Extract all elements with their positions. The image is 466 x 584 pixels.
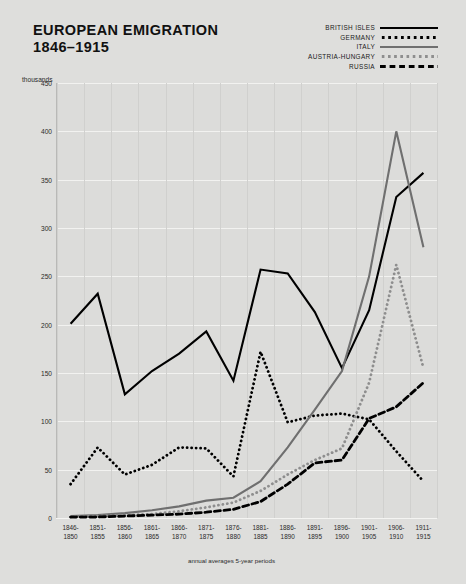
series-line-british-isles: [71, 173, 424, 394]
chart-page: EUROPEAN EMIGRATION 1846–1915 BRITISH IS…: [0, 0, 466, 584]
y-tick-400: 400: [8, 128, 52, 135]
page-title: EUROPEAN EMIGRATION: [33, 22, 218, 39]
legend-item-label: ITALY: [356, 43, 375, 50]
legend-swatch-dotted-icon: [380, 53, 438, 61]
legend-swatch-dashed-icon: [380, 62, 438, 70]
legend-item-label: BRITISH ISLES: [325, 24, 375, 31]
y-tick-0: 0: [8, 515, 52, 522]
plot-area: [57, 83, 437, 518]
legend-item-label: GERMANY: [340, 34, 375, 41]
x-axis-line: [56, 518, 437, 519]
legend-swatch-solid-icon: [380, 43, 438, 51]
legend-item-label: AUSTRIA-HUNGARY: [308, 53, 375, 60]
x-axis-tick-labels: 1846- 18501851- 18551856- 18601861- 1865…: [57, 524, 437, 554]
y-tick-100: 100: [8, 418, 52, 425]
page-subtitle: 1846–1915: [33, 39, 218, 56]
y-tick-450: 450: [8, 80, 52, 87]
series-lines: [57, 83, 437, 518]
legend-item-russia[interactable]: RUSSIA: [308, 61, 438, 71]
title-block: EUROPEAN EMIGRATION 1846–1915: [33, 22, 218, 56]
y-tick-50: 50: [8, 466, 52, 473]
legend-item-austria-hungary[interactable]: AUSTRIA-HUNGARY: [308, 52, 438, 62]
y-tick-150: 150: [8, 370, 52, 377]
y-tick-350: 350: [8, 176, 52, 183]
y-tick-250: 250: [8, 273, 52, 280]
y-tick-300: 300: [8, 225, 52, 232]
legend-item-british-isles[interactable]: BRITISH ISLES: [308, 23, 438, 33]
legend-item-label: RUSSIA: [349, 63, 375, 70]
gridline-x-14: [437, 83, 438, 518]
legend-swatch-dotted-icon: [380, 33, 438, 41]
x-axis-caption: annual averages 5-year periods: [188, 557, 275, 564]
legend-item-italy[interactable]: ITALY: [308, 42, 438, 52]
y-tick-200: 200: [8, 321, 52, 328]
legend-item-germany[interactable]: GERMANY: [308, 33, 438, 43]
y-axis-tick-labels: 050100150200250300350400450: [0, 83, 52, 518]
legend-swatch-solid-icon: [380, 24, 438, 32]
x-tick-13: 1911- 1915: [403, 524, 443, 541]
legend: BRITISH ISLESGERMANYITALYAUSTRIA-HUNGARY…: [308, 23, 438, 71]
series-line-russia: [71, 383, 424, 517]
